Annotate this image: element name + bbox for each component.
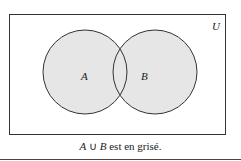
universe-label: U: [212, 20, 221, 32]
caption-set-b: B: [100, 140, 107, 152]
union-symbol: ∪: [89, 140, 97, 152]
venn-diagram: U A B: [0, 0, 241, 161]
set-a-label: A: [80, 70, 88, 82]
caption-text: est en grisé.: [109, 140, 161, 152]
caption: A ∪ B est en grisé.: [0, 140, 241, 153]
set-b-label: B: [141, 70, 148, 82]
caption-set-a: A: [80, 140, 87, 152]
bottom-rule: [0, 159, 241, 160]
